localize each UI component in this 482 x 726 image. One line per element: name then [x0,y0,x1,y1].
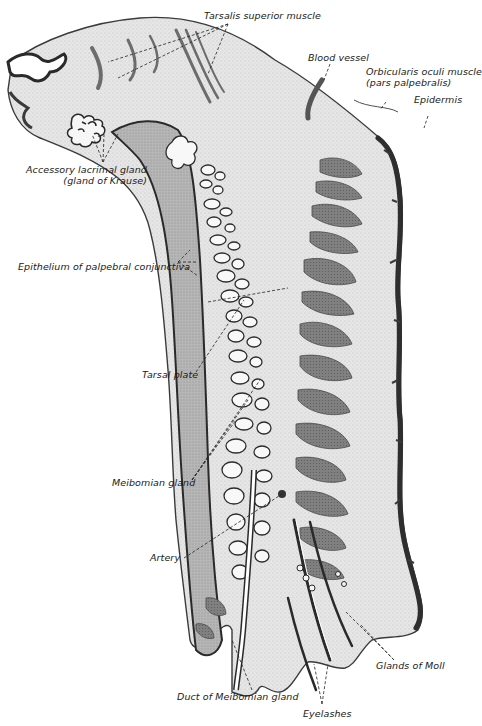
label-glands-of-moll: Glands of Moll [376,660,445,671]
label-epidermis: Epidermis [414,94,462,105]
label-artery: Artery [150,552,180,563]
label-blood-vessel: Blood vessel [308,52,369,63]
label-duct-of-meibomian-gland: Duct of Meibomian gland [177,691,299,702]
label-meibomian-gland: Meibomian gland [112,477,195,488]
label-epithelium-palpebral-conjunctiva: Epithelium of palpebral conjunctiva [18,261,190,272]
label-tarsal-plate: Tarsal plate [142,369,198,380]
accessory-lacrimal-gland [68,114,105,147]
label-orbicularis-oculi-muscle: Orbicularis oculi muscle (pars palpebral… [366,66,482,88]
label-accessory-lacrimal-gland: Accessory lacrimal gland (gland of Kraus… [26,164,147,186]
label-tarsalis-superior-muscle: Tarsalis superior muscle [204,10,321,21]
label-eyelashes: Eyelashes [303,708,352,719]
